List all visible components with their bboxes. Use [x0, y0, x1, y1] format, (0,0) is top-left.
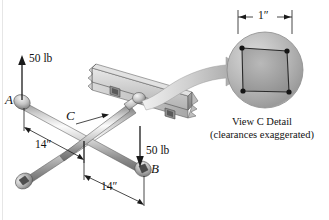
dimension-label-bottom: 14″: [101, 180, 117, 192]
view-c-detail-circle: [227, 32, 303, 108]
label-point-c: C: [66, 108, 75, 124]
dimension-label-left: 14″: [35, 138, 51, 150]
force-arrow-down-at-b: [136, 126, 144, 167]
label-point-a: A: [5, 92, 13, 108]
label-point-b: B: [151, 161, 159, 177]
force-label-top: 50 lb: [29, 52, 52, 64]
force-label-bottom: 50 lb: [146, 144, 169, 156]
dimension-label-detail: 1″: [258, 9, 269, 21]
detail-caption-line1: View C Detail: [196, 116, 328, 129]
force-arrow-up-at-a: [18, 55, 26, 100]
lug-wrench-figure: [0, 0, 329, 220]
detail-caption-line2: (clearances exaggerated): [196, 129, 328, 142]
detail-caption: View C Detail (clearances exaggerated): [196, 116, 328, 142]
